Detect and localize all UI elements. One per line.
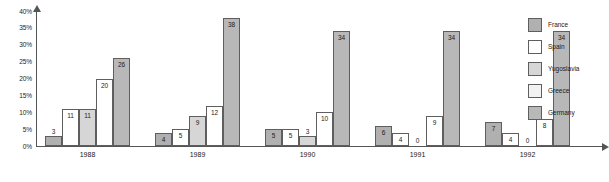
y-axis-tick-label: 15% xyxy=(19,92,32,99)
bar-chart-figure: 0%5%10%15%20%25%30%35%40% 31111202619884… xyxy=(0,0,609,182)
bar: 5 xyxy=(282,129,299,146)
bar: 26 xyxy=(113,58,130,146)
bar: 34 xyxy=(333,31,350,146)
bar-value-label: 5 xyxy=(173,132,188,140)
bar-value-label: 9 xyxy=(190,119,205,127)
bar-value-label: 10 xyxy=(317,115,332,123)
legend-item[interactable]: Spain xyxy=(528,38,606,60)
bar-value-label: 6 xyxy=(376,129,391,137)
bar: 9 xyxy=(189,116,206,146)
bar-value-label: 4 xyxy=(503,136,518,144)
bar-value-label: 20 xyxy=(97,82,112,90)
bar-value-label: 3 xyxy=(300,128,315,136)
bar: 9 xyxy=(426,116,443,146)
y-axis-tick-label: 40% xyxy=(19,8,32,15)
y-axis-tick-label: 35% xyxy=(19,24,32,31)
bar-value-label: 11 xyxy=(80,112,95,120)
x-axis-category-label: 1988 xyxy=(45,150,130,159)
legend-swatch-icon xyxy=(528,106,542,120)
y-axis-tick-label: 0% xyxy=(23,143,32,150)
legend-label: Greece xyxy=(548,86,569,95)
bar-group: 6409341991 xyxy=(375,11,469,146)
bar: 12 xyxy=(206,106,223,147)
x-axis-line xyxy=(36,146,603,147)
legend-label: Yugoslavia xyxy=(548,64,579,73)
bar: 6 xyxy=(375,126,392,146)
legend-label: Germany xyxy=(548,108,575,117)
bar: 3 xyxy=(45,136,62,146)
legend-label: Spain xyxy=(548,42,565,51)
x-axis-arrow-icon xyxy=(602,143,609,151)
y-axis: 0%5%10%15%20%25%30%35%40% xyxy=(0,0,34,182)
legend-item[interactable]: France xyxy=(528,16,606,38)
legend-item[interactable]: Germany xyxy=(528,104,606,126)
bar-value-label: 7 xyxy=(486,125,501,133)
bar: 4 xyxy=(392,133,409,147)
bar: 5 xyxy=(172,129,189,146)
bar-value-label: 26 xyxy=(114,61,129,69)
bar: 4 xyxy=(155,133,172,147)
bar-value-label: 5 xyxy=(266,132,281,140)
bar-value-label: 12 xyxy=(207,109,222,117)
legend-item[interactable]: Yugoslavia xyxy=(528,60,606,82)
legend-swatch-icon xyxy=(528,84,542,98)
x-axis-category-label: 1992 xyxy=(485,150,570,159)
bar-value-label: 4 xyxy=(393,136,408,144)
y-axis-tick-label: 5% xyxy=(23,126,32,133)
plot-area: 3111120261988459123819895531034199064093… xyxy=(37,11,603,146)
legend-item[interactable]: Greece xyxy=(528,82,606,104)
y-axis-tick-label: 10% xyxy=(19,109,32,116)
bar: 11 xyxy=(62,109,79,146)
chart-legend: FranceSpainYugoslaviaGreeceGermany xyxy=(528,16,606,126)
bar-group: 3111120261988 xyxy=(45,11,139,146)
bar-value-label: 34 xyxy=(444,34,459,42)
bar-value-label: 0 xyxy=(519,137,536,145)
legend-swatch-icon xyxy=(528,18,542,32)
bar: 34 xyxy=(443,31,460,146)
y-axis-tick-label: 20% xyxy=(19,75,32,82)
bar-group: 45912381989 xyxy=(155,11,249,146)
bar: 11 xyxy=(79,109,96,146)
bar-value-label: 11 xyxy=(63,112,78,120)
legend-label: France xyxy=(548,20,568,29)
x-axis-category-label: 1990 xyxy=(265,150,350,159)
bar: 7 xyxy=(485,122,502,146)
x-axis-category-label: 1989 xyxy=(155,150,240,159)
bar: 10 xyxy=(316,112,333,146)
bar-value-label: 38 xyxy=(224,21,239,29)
y-axis-tick-label: 25% xyxy=(19,58,32,65)
bar: 3 xyxy=(299,136,316,146)
bar: 5 xyxy=(265,129,282,146)
bar-value-label: 34 xyxy=(334,34,349,42)
x-axis-category-label: 1991 xyxy=(375,150,460,159)
y-axis-tick-label: 30% xyxy=(19,41,32,48)
bar-value-label: 9 xyxy=(427,119,442,127)
bar-value-label: 3 xyxy=(46,128,61,136)
bar-value-label: 0 xyxy=(409,137,426,145)
bar: 20 xyxy=(96,79,113,147)
bar-value-label: 5 xyxy=(283,132,298,140)
legend-swatch-icon xyxy=(528,62,542,76)
bar-group: 55310341990 xyxy=(265,11,359,146)
legend-swatch-icon xyxy=(528,40,542,54)
bar: 38 xyxy=(223,18,240,146)
bar-value-label: 4 xyxy=(156,136,171,144)
bar: 4 xyxy=(502,133,519,147)
